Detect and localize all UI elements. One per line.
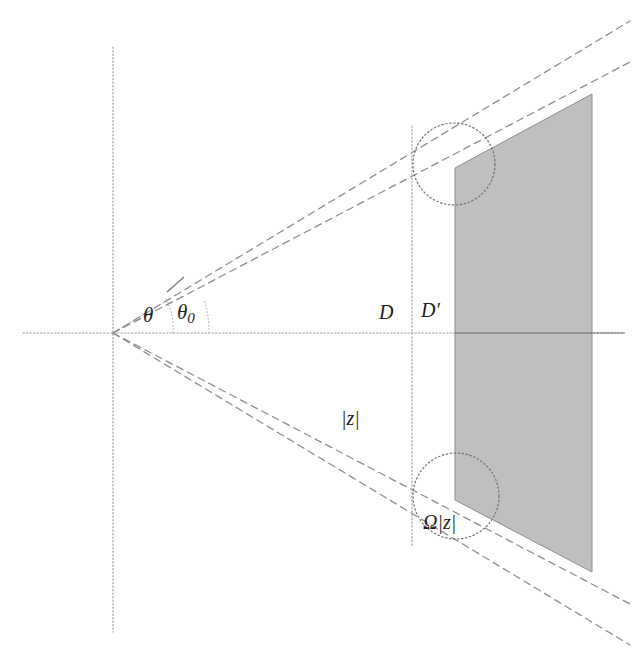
theta-tick-mark [167, 277, 184, 292]
modulus-z-label: |z| [341, 408, 360, 428]
theta0-subscript: 0 [187, 310, 195, 326]
angle-theta0-label: θ0 [177, 302, 195, 326]
theta0-arc [204, 300, 209, 333]
omega-modulus-z-label: Ω|z| [423, 512, 456, 532]
dprime-mark: ′ [435, 299, 439, 321]
theta0-base: θ [177, 300, 187, 324]
dprime-base: D [421, 299, 435, 321]
distance-D-prime-label: D′ [421, 300, 440, 320]
theta-arc [113, 298, 171, 333]
angle-theta-label: θ [143, 305, 153, 326]
figure-canvas: θ θ0 D D′ |z| Ω|z| [0, 0, 643, 669]
distance-D-label: D [379, 302, 393, 322]
diagram-svg [0, 0, 643, 669]
